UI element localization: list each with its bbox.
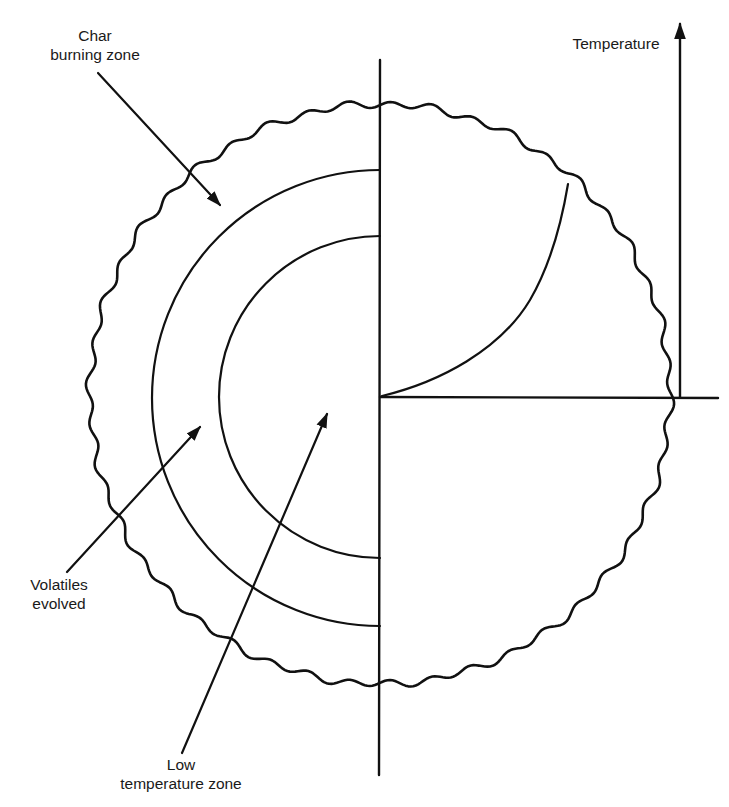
particle-diagram: [0, 0, 729, 807]
low-temperature-zone-arc: [219, 236, 380, 558]
low-temperature-zone-label: Low temperature zone: [96, 755, 266, 793]
horizontal-radius-line: [380, 397, 718, 398]
char-burning-zone-label: Char burning zone: [30, 26, 160, 64]
low-temp-pointer-arrow: [182, 414, 327, 753]
temperature-axis-label: Temperature: [560, 34, 672, 53]
volatiles-evolved-label: Volatiles evolved: [14, 575, 104, 613]
char-zone-pointer-arrow: [98, 73, 220, 205]
temperature-profile-curve: [382, 184, 568, 396]
vertical-centerline: [379, 60, 380, 775]
